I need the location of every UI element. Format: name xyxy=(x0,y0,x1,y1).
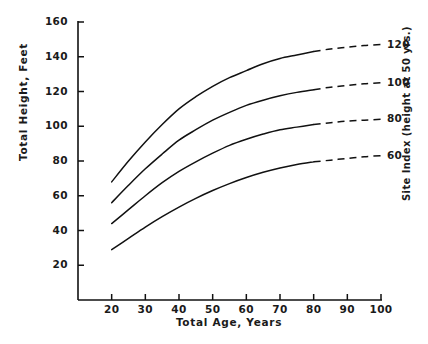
curve-dashed-80 xyxy=(314,119,381,124)
curve-dashed-60 xyxy=(314,156,381,162)
axis-ticks xyxy=(78,22,381,300)
axis-lines xyxy=(78,21,382,300)
curve-dashed-100 xyxy=(314,83,381,90)
site-index-chart-figure: Total Height, Feet Site Index (height at… xyxy=(0,0,428,344)
curve-solid-60 xyxy=(112,162,314,250)
curve-solid-120 xyxy=(112,52,314,182)
plot-area xyxy=(0,0,428,344)
site-index-curves xyxy=(112,45,381,250)
curve-solid-80 xyxy=(112,125,314,224)
curve-dashed-120 xyxy=(314,45,381,52)
